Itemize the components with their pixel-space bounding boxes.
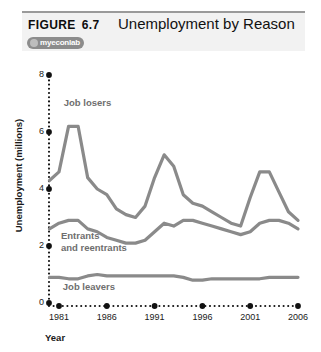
y-axis-title: Unemployment (millions) [13,111,24,241]
figure-number: 6.7 [82,18,100,32]
y-tick-label: 6 [28,126,44,136]
x-tick-label: 1996 [185,312,219,322]
myeconlab-label: myeconlab [40,39,80,47]
series-annotation: Job losers [64,97,112,108]
series-annotation: Entrants [61,230,100,241]
x-tick-label: 1986 [90,312,124,322]
y-tick-label: 0 [28,297,44,307]
x-tick-label: 1981 [42,312,76,322]
y-tick-label: 4 [28,183,44,193]
series-line [49,126,298,226]
myeconlab-logo-icon [30,39,38,47]
x-tick-label: 1991 [138,312,172,322]
x-axis-title: Year [45,332,65,343]
series-line [49,275,298,281]
figure-title: Unemployment by Reason [118,15,295,32]
x-tick-label: 2001 [233,312,267,322]
figure-label: FIGURE6.7 [28,18,100,32]
myeconlab-badge[interactable]: myeconlab [27,37,84,49]
y-tick-label: 8 [28,69,44,79]
series-annotation: Job leavers [63,281,115,292]
chart-svg: Job losersEntrantsand reentrantsJob leav… [0,52,321,352]
figure-container: FIGURE6.7 Unemployment by Reason myeconl… [0,0,321,352]
figure-label-text: FIGURE [28,18,76,32]
y-tick-label: 2 [28,240,44,250]
chart-plot-area: Job losersEntrantsand reentrantsJob leav… [0,52,321,352]
series-annotation: and reentrants [61,242,127,253]
x-tick-label: 2006 [281,312,315,322]
